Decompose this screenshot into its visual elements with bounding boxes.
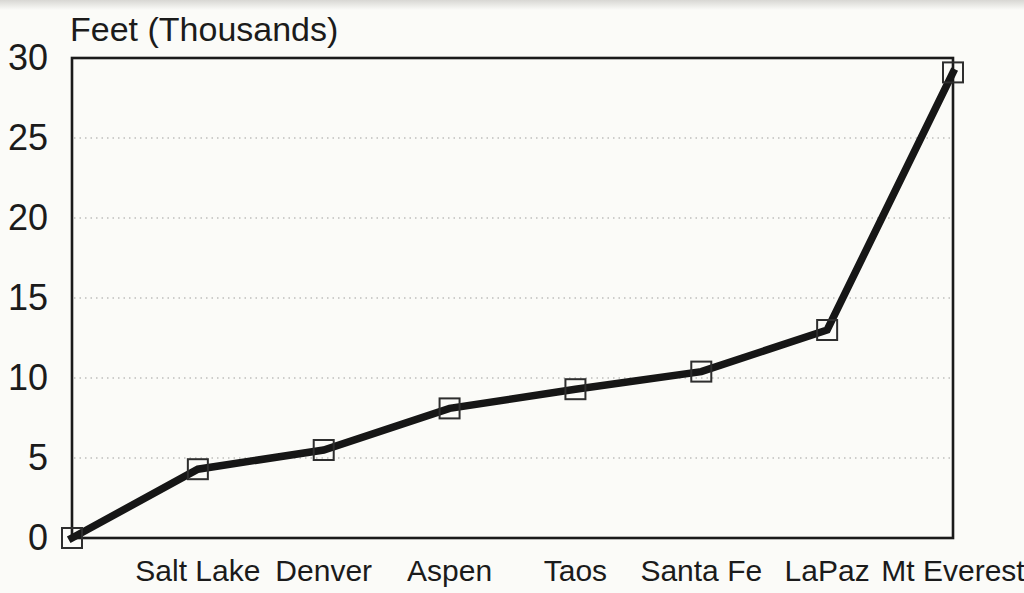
x-category-label-santa-fe: Santa Fe <box>640 554 762 587</box>
y-tick-label-15: 15 <box>8 277 48 318</box>
y-tick-label-10: 10 <box>8 357 48 398</box>
x-category-label-lapaz: LaPaz <box>785 554 870 587</box>
elevation-line-chart: 051015202530Salt LakeDenverAspenTaosSant… <box>0 0 1024 593</box>
x-category-label-aspen: Aspen <box>407 554 492 587</box>
elevation-series-line <box>72 72 953 538</box>
x-category-label-taos: Taos <box>544 554 607 587</box>
x-category-label-mt-everest: Mt Everest <box>881 554 1024 587</box>
y-tick-label-30: 30 <box>8 37 48 78</box>
y-tick-label-20: 20 <box>8 197 48 238</box>
x-category-label-denver: Denver <box>275 554 372 587</box>
y-tick-label-25: 25 <box>8 117 48 158</box>
x-category-label-salt-lake: Salt Lake <box>135 554 260 587</box>
scanned-chart-page: Feet (Thousands) 051015202530Salt LakeDe… <box>0 0 1024 593</box>
y-tick-label-5: 5 <box>28 437 48 478</box>
y-tick-label-0: 0 <box>28 517 48 558</box>
